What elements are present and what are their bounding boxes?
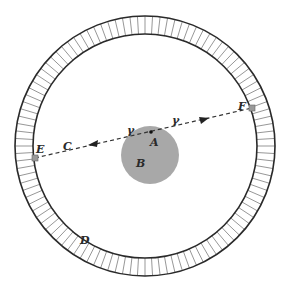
ring-tick <box>26 190 43 197</box>
label-B: B <box>135 157 145 170</box>
ring-tick <box>101 251 107 268</box>
ring-tick <box>45 218 59 230</box>
ring-tick <box>207 240 217 255</box>
hit-marker-F <box>249 105 255 111</box>
ring-tick <box>19 172 37 176</box>
ring-tick <box>239 75 254 85</box>
ring-tick <box>115 20 119 38</box>
ring-tick <box>152 258 153 276</box>
ring-tick <box>130 257 132 275</box>
ring-tick <box>56 227 68 240</box>
ring-tick <box>94 27 101 44</box>
ring-tick <box>242 81 258 90</box>
ring-tick <box>20 178 37 183</box>
label-D: D <box>79 234 90 247</box>
ring-tick <box>250 184 267 190</box>
ring-tick <box>248 190 265 197</box>
ring-tick <box>245 196 261 204</box>
ring-tick <box>189 27 196 44</box>
ring-tick <box>29 196 45 204</box>
ring-tick <box>189 249 196 266</box>
ring-tick <box>108 253 113 270</box>
label-C: C <box>63 140 72 153</box>
ring-tick <box>212 236 223 250</box>
ring-tick <box>130 17 132 35</box>
ring-tick <box>255 165 273 168</box>
ring-tick <box>23 102 40 108</box>
ring-tick <box>254 172 272 176</box>
ring-tick <box>164 256 167 274</box>
ring-tick <box>26 95 43 102</box>
ring-tick <box>17 123 35 126</box>
label-E: E <box>35 143 45 156</box>
ring-tick <box>87 30 95 46</box>
ring-tick <box>183 251 189 268</box>
ring-tick <box>15 138 33 139</box>
ring-tick <box>20 109 37 114</box>
ring-tick <box>16 131 34 133</box>
ring-tick <box>212 42 223 56</box>
ring-tick <box>242 202 258 211</box>
ring-tick <box>256 159 274 161</box>
ring-tick <box>61 46 73 60</box>
label-gamma-right: γ <box>172 114 180 127</box>
ring-tick <box>36 208 51 218</box>
ring-tick <box>257 138 275 139</box>
ring-tick <box>252 178 269 183</box>
ring-tick <box>222 227 234 240</box>
ring-tick <box>256 131 274 133</box>
ring-tick <box>255 123 273 126</box>
ring-tick <box>158 17 160 35</box>
ring-tick <box>87 246 95 262</box>
ring-tick <box>41 68 55 79</box>
ring-tick <box>67 42 78 56</box>
ring-tick <box>201 243 210 259</box>
arrow-left-icon <box>88 140 98 147</box>
ring-tick <box>94 249 101 266</box>
ring-tick <box>231 218 245 230</box>
ring-tick <box>231 62 245 74</box>
ring-tick <box>245 88 261 96</box>
ring-tick <box>222 51 234 64</box>
ring-tick <box>164 18 167 36</box>
ring-tick <box>32 81 48 90</box>
ring-tick <box>235 213 249 224</box>
ring-tick <box>137 16 138 34</box>
ring-tick <box>254 116 272 120</box>
ring-tick <box>41 213 55 224</box>
ring-tick <box>115 255 119 273</box>
ring-tick <box>195 30 203 46</box>
ring-tick <box>101 24 107 41</box>
ring-tick <box>15 153 33 154</box>
ring-tick <box>217 46 229 60</box>
ring-tick <box>45 62 59 74</box>
ring-tick <box>23 184 40 190</box>
ring-tick <box>217 232 229 246</box>
ring-tick <box>177 253 182 270</box>
ring-tick <box>248 95 265 102</box>
ring-tick <box>171 255 175 273</box>
label-A: A <box>149 136 159 149</box>
ring-tick <box>80 33 89 49</box>
point-A-dot <box>149 130 153 134</box>
ring-tick <box>50 223 63 235</box>
ring-tick <box>171 20 175 38</box>
ring-tick <box>50 57 63 69</box>
ring-tick <box>226 57 239 69</box>
ring-tick <box>195 246 203 262</box>
ring-tick <box>61 232 73 246</box>
ring-tick <box>108 21 113 38</box>
ring-tick <box>36 75 51 85</box>
ring-tick <box>16 159 34 161</box>
ring-tick <box>17 165 35 168</box>
ring-tick <box>158 257 160 275</box>
ring-tick <box>56 51 68 64</box>
ring-tick <box>29 88 45 96</box>
label-gamma-left: γ <box>127 124 135 137</box>
ring-tick <box>201 33 210 49</box>
ring-tick <box>137 258 138 276</box>
ring-tick <box>183 24 189 41</box>
ring-tick <box>177 21 182 38</box>
ring-tick <box>152 16 153 34</box>
ring-tick <box>207 37 217 52</box>
